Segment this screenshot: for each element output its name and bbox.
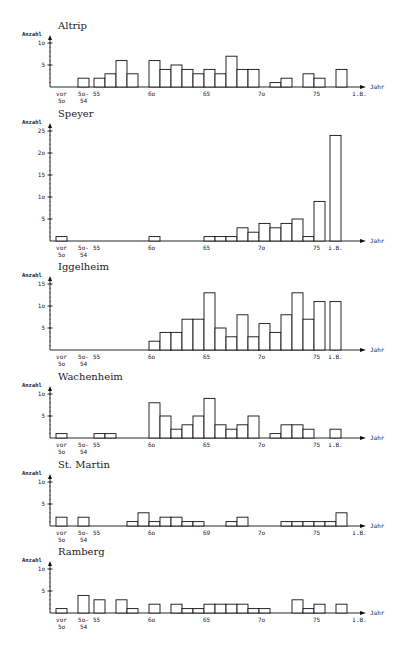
x-tick-label: 55 [93, 90, 101, 97]
x-tick-label: vor [56, 90, 67, 97]
x-tick-label: 54 [80, 448, 88, 455]
bar-69 [248, 232, 259, 241]
bar-65 [204, 237, 215, 241]
chart-iggelheim: IggelheimAnzahl51o15Jahrvor5o5o-54556o65… [22, 261, 385, 367]
bar-71 [270, 83, 281, 87]
y-tick-label: 5 [41, 412, 45, 419]
x-tick-label: 7o [258, 441, 266, 448]
x-tick-label: vor [56, 441, 67, 448]
x-axis-label: Jahr [370, 346, 385, 353]
bar-62 [171, 517, 182, 526]
x-tick-label: 55 [93, 441, 101, 448]
chart-altrip: AltripAnzahl51oJahrvor5o5o-54556o657o75i… [22, 20, 385, 104]
bar-63 [182, 609, 193, 613]
x-axis-label: Jahr [370, 237, 385, 244]
chart-title: St. Martin [58, 459, 110, 470]
x-axis-label: Jahr [370, 609, 385, 616]
bar-55 [94, 434, 105, 438]
x-tick-label: 7o [258, 616, 266, 623]
x-tick-label: vor [56, 616, 67, 623]
bar-74 [303, 429, 314, 438]
x-tick-label: 5o- [78, 616, 89, 623]
bar-61 [160, 416, 171, 438]
y-tick-label: 5 [41, 500, 45, 507]
bar-iB [330, 135, 341, 241]
bar-61 [160, 69, 171, 87]
bar-65 [204, 604, 215, 613]
x-tick-label: 55 [93, 244, 101, 251]
bar-68 [237, 228, 248, 241]
bar-vor50 [56, 237, 67, 241]
x-axis-arrow-icon [360, 611, 366, 615]
bar-71 [270, 332, 281, 350]
y-tick-label: 15 [38, 171, 46, 178]
bar-75 [314, 522, 325, 526]
bar-60 [149, 604, 160, 613]
bar-58 [127, 522, 138, 526]
bar-64 [193, 319, 204, 350]
x-tick-label: 6o [148, 353, 156, 360]
y-axis-arrow-icon [48, 474, 52, 479]
x-tick-label: 5o [58, 448, 66, 455]
x-tick-label: i.B. [328, 244, 342, 251]
bar-57 [116, 600, 127, 613]
bar-68 [237, 517, 248, 526]
chart-title: Wachenheim [58, 371, 123, 382]
histogram-panel: AltripAnzahl51oJahrvor5o5o-54556o657o75i… [0, 0, 413, 656]
bar-57 [116, 61, 127, 87]
bar-56 [105, 74, 116, 87]
bar-59 [138, 513, 149, 526]
chart-title: Altrip [57, 20, 87, 31]
bar-vor50 [56, 609, 67, 613]
bar-50-54 [78, 78, 89, 87]
chart-title: Iggelheim [58, 261, 109, 272]
x-tick-label: 6o [148, 90, 156, 97]
bar-73 [292, 600, 303, 613]
bar-70 [259, 324, 270, 350]
x-axis-arrow-icon [360, 524, 366, 528]
y-tick-label: 1o [38, 302, 46, 309]
y-axis-arrow-icon [48, 35, 52, 40]
y-axis-label: Anzahl [22, 382, 42, 388]
bar-67 [226, 56, 237, 87]
bar-77 [336, 604, 347, 613]
bar-76 [325, 522, 336, 526]
x-tick-label: 7o [258, 353, 266, 360]
x-tick-label: 5o- [78, 529, 89, 536]
x-tick-label: 75 [313, 616, 321, 623]
bar-62 [171, 429, 182, 438]
y-axis-arrow-icon [48, 561, 52, 566]
y-tick-label: 5 [41, 324, 45, 331]
bar-68 [237, 604, 248, 613]
bar-68 [237, 315, 248, 350]
x-tick-label: 7o [258, 244, 266, 251]
bar-67 [226, 522, 237, 526]
bar-77 [336, 513, 347, 526]
x-tick-label: 7o [258, 90, 266, 97]
x-tick-label: 54 [80, 536, 88, 543]
bar-75 [314, 604, 325, 613]
bar-69 [248, 609, 259, 613]
bar-71 [270, 434, 281, 438]
x-tick-label: 75 [313, 441, 321, 448]
y-axis-arrow-icon [48, 276, 52, 281]
x-tick-label: 6o [148, 616, 156, 623]
bar-63 [182, 425, 193, 438]
x-tick-label: 55 [93, 353, 101, 360]
bar-72 [281, 522, 292, 526]
bar-64 [193, 74, 204, 87]
bar-50-54 [78, 595, 89, 613]
x-tick-label: 54 [80, 360, 88, 367]
x-tick-label: vor [56, 244, 67, 251]
bar-65 [204, 69, 215, 87]
bar-73 [292, 219, 303, 241]
chart-wachenheim: WachenheimAnzahl51oJahrvor5o5o-54556o657… [22, 371, 385, 455]
x-tick-label: 55 [93, 529, 101, 536]
bar-55 [94, 78, 105, 87]
x-tick-label: 65 [203, 616, 211, 623]
x-tick-label: vor [56, 529, 67, 536]
x-tick-label: 55 [93, 616, 101, 623]
x-tick-label: i.B. [328, 441, 342, 448]
bar-74 [303, 74, 314, 87]
x-axis-label: Jahr [370, 83, 385, 90]
